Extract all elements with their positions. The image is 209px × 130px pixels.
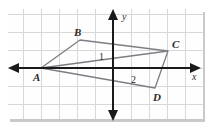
angle-label-2: 2	[131, 74, 136, 85]
vertex-label-d: D	[152, 91, 161, 103]
vertex-label-a: A	[32, 71, 40, 83]
angle-label-1: 1	[99, 51, 104, 62]
vertex-label-c: C	[172, 38, 180, 50]
plot-background	[8, 9, 203, 119]
geometry-figure: y x A B C D 1 2	[0, 0, 209, 130]
x-axis-label: x	[191, 71, 197, 82]
y-axis-label: y	[121, 11, 127, 22]
coordinate-plane-svg: y x A B C D 1 2	[0, 0, 209, 130]
vertex-label-b: B	[73, 26, 81, 38]
